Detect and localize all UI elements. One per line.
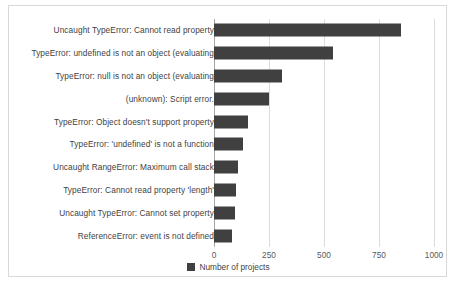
bar bbox=[214, 92, 269, 105]
bar bbox=[214, 138, 243, 151]
bar bbox=[214, 47, 333, 60]
bar-row: ReferenceError: event is not defined bbox=[9, 224, 448, 247]
legend-label-number-of-projects: Number of projects bbox=[199, 262, 269, 272]
bar-row: Uncaught TypeError: Cannot read property bbox=[9, 19, 448, 42]
bar-category-label: TypeError: undefined is not an object (e… bbox=[31, 48, 214, 58]
bar-category-label: TypeError: null is not an object (evalua… bbox=[55, 71, 214, 81]
chart-legend: Number of projects bbox=[9, 262, 448, 272]
x-axis-tick-label: 0 bbox=[212, 250, 217, 260]
bar bbox=[214, 183, 236, 196]
bar bbox=[214, 69, 282, 82]
bar-category-label: TypeError: Cannot read property 'length' bbox=[63, 185, 214, 195]
bar-row: TypeError: Object doesn't support proper… bbox=[9, 110, 448, 133]
bar-row: TypeError: undefined is not an object (e… bbox=[9, 42, 448, 65]
chart-frame: 02505007501000Uncaught TypeError: Cannot… bbox=[8, 5, 447, 277]
x-axis-tick-label: 1000 bbox=[425, 250, 443, 260]
bar bbox=[214, 229, 232, 242]
x-axis-tick-label: 500 bbox=[317, 250, 331, 260]
bar-category-label: Uncaught RangeError: Maximum call stack bbox=[53, 162, 214, 172]
legend-swatch-number-of-projects bbox=[187, 263, 195, 271]
bar bbox=[214, 115, 248, 128]
x-axis-tick-label: 250 bbox=[262, 250, 276, 260]
bar-category-label: TypeError: Object doesn't support proper… bbox=[54, 117, 214, 127]
bar-category-label: Uncaught TypeError: Cannot read property bbox=[54, 25, 214, 35]
bar-category-label: Uncaught TypeError: Cannot set property bbox=[59, 208, 214, 218]
bar-row: TypeError: Cannot read property 'length' bbox=[9, 179, 448, 202]
bar bbox=[214, 24, 401, 37]
bar-category-label: ReferenceError: event is not defined bbox=[78, 231, 214, 241]
bar-row: TypeError: null is not an object (evalua… bbox=[9, 65, 448, 88]
bar-row: TypeError: 'undefined' is not a function bbox=[9, 133, 448, 156]
bar-row: Uncaught TypeError: Cannot set property bbox=[9, 201, 448, 224]
plot-area: 02505007501000Uncaught TypeError: Cannot… bbox=[9, 6, 448, 278]
bar-category-label: (unknown): Script error. bbox=[126, 94, 214, 104]
bar bbox=[214, 161, 238, 174]
x-axis-tick-label: 750 bbox=[372, 250, 386, 260]
bar-row: Uncaught RangeError: Maximum call stack bbox=[9, 156, 448, 179]
bar-category-label: TypeError: 'undefined' is not a function bbox=[70, 139, 214, 149]
bar-row: (unknown): Script error. bbox=[9, 87, 448, 110]
bar bbox=[214, 206, 235, 219]
